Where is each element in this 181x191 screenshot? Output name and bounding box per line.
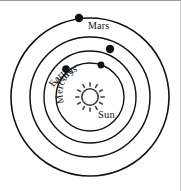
planet-dot-earth <box>106 45 114 53</box>
solar-system-diagram: Mars Earth Venus Mercury Sun <box>0 0 181 191</box>
planet-dot-mercury <box>98 62 105 69</box>
label-mercury: Mercury <box>53 64 76 105</box>
label-sun: Sun <box>98 109 115 120</box>
sun-disc <box>82 89 98 105</box>
sun-starburst-icon <box>75 82 105 112</box>
planet-dot-mars <box>75 14 83 22</box>
solar-system-canvas: Mars Earth Venus Mercury Sun <box>0 1 181 191</box>
label-mars: Mars <box>88 20 109 31</box>
